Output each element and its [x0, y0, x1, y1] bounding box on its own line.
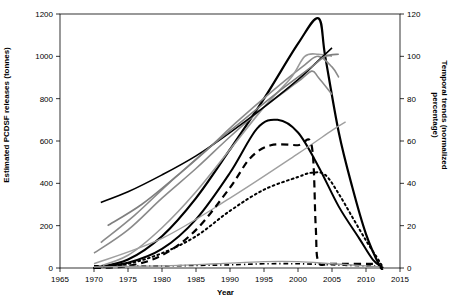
y-tick-left-label: 600 — [40, 137, 54, 146]
y-tick-right-label: 0 — [407, 264, 412, 273]
y-tick-left-label: 1200 — [35, 10, 53, 19]
series-line — [94, 71, 332, 253]
x-tick-label: 1975 — [119, 275, 137, 284]
series-line — [94, 122, 346, 264]
x-tick-label: 1980 — [153, 275, 171, 284]
y-tick-left-label: 200 — [40, 222, 54, 231]
y-tick-right-label: 80 — [407, 95, 416, 104]
y-tick-left-label: 0 — [49, 264, 54, 273]
y-tick-right-label: 20 — [407, 222, 416, 231]
x-tick-label: 1965 — [51, 275, 69, 284]
y-tick-left-label: 1000 — [35, 52, 53, 61]
x-tick-label: 2010 — [357, 275, 375, 284]
y-tick-right-label: 40 — [407, 179, 416, 188]
x-tick-label: 1985 — [187, 275, 205, 284]
x-tick-label: 1995 — [255, 275, 273, 284]
chart-plot: 1965197019751980198519901995200020052010… — [0, 0, 451, 307]
series-line — [94, 18, 383, 269]
x-tick-label: 2000 — [289, 275, 307, 284]
x-tick-label: 1990 — [221, 275, 239, 284]
chart-container: Estimated PCDSF releases (tonnes) Tempor… — [0, 0, 451, 307]
y-tick-right-label: 100 — [407, 52, 421, 61]
series-line — [94, 120, 383, 268]
x-tick-label: 2015 — [391, 275, 409, 284]
y-tick-right-label: 60 — [407, 137, 416, 146]
plot-frame — [60, 14, 400, 268]
y-tick-left-label: 400 — [40, 179, 54, 188]
x-tick-label: 1970 — [85, 275, 103, 284]
x-tick-label: 2005 — [323, 275, 341, 284]
y-tick-left-label: 800 — [40, 95, 54, 104]
y-tick-right-label: 120 — [407, 10, 421, 19]
series-line — [94, 54, 332, 268]
